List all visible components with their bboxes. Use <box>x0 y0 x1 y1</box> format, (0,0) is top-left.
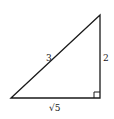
triangle-diagram: 3 2 √5 <box>0 0 114 119</box>
hypotenuse-label: 3 <box>46 53 52 63</box>
horizontal-leg-label: √5 <box>49 103 61 113</box>
right-angle-marker <box>94 92 100 98</box>
right-triangle <box>11 15 100 98</box>
vertical-leg-label: 2 <box>103 53 109 63</box>
